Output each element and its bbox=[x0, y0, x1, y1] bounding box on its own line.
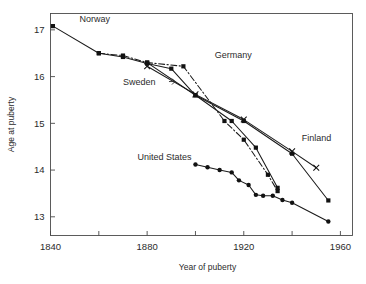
data-point-marker bbox=[145, 60, 149, 64]
data-point-marker bbox=[51, 24, 55, 28]
x-axis-title: Year of puberty bbox=[179, 262, 237, 272]
data-point-marker bbox=[217, 168, 221, 172]
data-point-marker bbox=[254, 193, 258, 197]
series-label-germany: Germany bbox=[215, 50, 253, 60]
data-point-marker bbox=[246, 183, 250, 187]
y-tick-label: 17 bbox=[34, 24, 45, 35]
y-tick-label: 16 bbox=[34, 71, 45, 82]
series-label-united-states: United States bbox=[137, 152, 192, 162]
data-point-marker bbox=[271, 194, 275, 198]
data-point-marker bbox=[230, 119, 234, 123]
x-tick-label: 1960 bbox=[330, 241, 351, 252]
data-point-marker bbox=[326, 198, 330, 202]
data-point-marker bbox=[261, 194, 265, 198]
data-point-marker bbox=[326, 219, 330, 223]
data-point-marker bbox=[121, 53, 125, 57]
x-tick-label: 1880 bbox=[137, 241, 158, 252]
y-tick-label: 13 bbox=[34, 211, 45, 222]
data-point-marker bbox=[230, 170, 234, 174]
y-tick-label: 14 bbox=[34, 164, 45, 175]
data-point-marker bbox=[237, 178, 241, 182]
series-label-norway: Norway bbox=[79, 14, 110, 24]
data-point-marker bbox=[169, 67, 173, 71]
data-point-marker bbox=[97, 51, 101, 55]
data-point-marker bbox=[205, 165, 209, 169]
y-axis-title: Age at puberty bbox=[6, 96, 16, 152]
data-point-marker bbox=[280, 198, 284, 202]
x-tick-label: 1840 bbox=[40, 241, 61, 252]
data-point-marker bbox=[276, 186, 280, 190]
data-point-marker bbox=[242, 138, 246, 142]
data-point-marker bbox=[181, 64, 185, 68]
series-label-sweden: Sweden bbox=[123, 77, 156, 87]
data-point-marker bbox=[254, 146, 258, 150]
puberty-age-line-chart: 1840188019201960 1314151617 NorwayGerman… bbox=[0, 0, 366, 284]
series-label-finland: Finland bbox=[302, 133, 332, 143]
data-point-marker bbox=[193, 162, 197, 166]
chart-figure: 1840188019201960 1314151617 NorwayGerman… bbox=[0, 0, 366, 284]
data-point-marker bbox=[222, 119, 226, 123]
data-point-marker bbox=[290, 201, 294, 205]
y-tick-label: 15 bbox=[34, 118, 45, 129]
x-tick-label: 1920 bbox=[233, 241, 254, 252]
